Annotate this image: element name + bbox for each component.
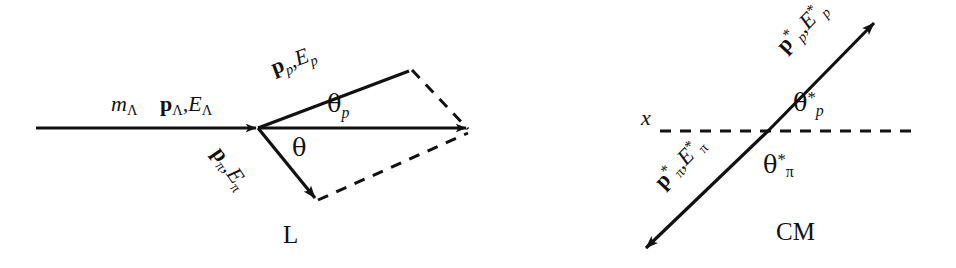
lab-frame-caption: L bbox=[283, 222, 298, 247]
cm-theta-pion-angle-label: θ*π bbox=[763, 152, 794, 180]
cm-theta-proton-angle-label: θ*p bbox=[793, 90, 824, 119]
theta-proton-subscript: p bbox=[341, 104, 349, 121]
cm-theta-pion-star: * bbox=[777, 150, 785, 169]
physics-decay-diagram: mΛ pΛ,EΛ pp,Ep pπ,Eπ θp θ L x p*p,E*p p*… bbox=[0, 0, 956, 268]
cm-theta-pion-symbol: θ bbox=[763, 151, 777, 179]
lambda-mass-subscript: Λ bbox=[127, 102, 138, 118]
lambda-mass-label: mΛ bbox=[111, 93, 137, 118]
parallelogram-dashed-lower bbox=[318, 133, 468, 200]
cm-frame-group bbox=[646, 23, 912, 248]
lambda-momentum-subscript: Λ bbox=[172, 102, 183, 118]
theta-proton-angle-label: θp bbox=[327, 92, 349, 120]
lambda-energy-symbol: E bbox=[188, 91, 201, 116]
theta-angle-label: θ bbox=[292, 136, 306, 160]
cm-x-axis-label: x bbox=[641, 107, 651, 129]
cm-theta-proton-star: * bbox=[807, 88, 815, 107]
lambda-energy-subscript: Λ bbox=[202, 102, 213, 118]
lambda-momentum-symbol: p bbox=[160, 91, 172, 116]
theta-symbol: θ bbox=[292, 134, 306, 162]
theta-proton-symbol: θ bbox=[327, 90, 341, 118]
cm-theta-proton-symbol: θ bbox=[793, 89, 807, 117]
lambda-momentum-energy-label: pΛ,EΛ bbox=[160, 93, 212, 118]
lambda-mass-symbol: m bbox=[111, 91, 127, 116]
cm-theta-pion-subscript: π bbox=[786, 163, 794, 180]
cm-frame-caption: CM bbox=[776, 219, 815, 244]
cm-theta-proton-subscript: p bbox=[816, 102, 824, 119]
parallelogram-dashed-upper bbox=[412, 70, 468, 129]
